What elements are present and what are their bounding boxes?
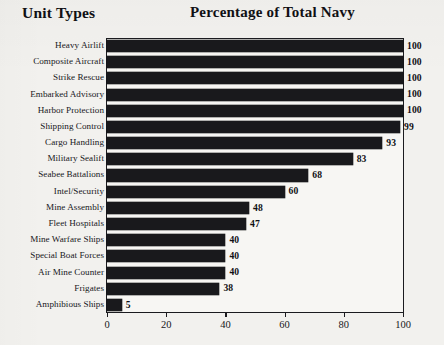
x-tick-label: 20 — [161, 319, 172, 330]
category-label: Mine Warfare Ships — [30, 234, 104, 244]
value-label: 5 — [126, 299, 131, 310]
bar — [107, 186, 285, 198]
value-label: 40 — [229, 234, 239, 245]
x-tick-mark — [403, 313, 404, 317]
bar — [107, 89, 403, 101]
bar — [107, 105, 403, 117]
category-label: Strike Rescue — [53, 72, 104, 82]
value-label: 40 — [229, 266, 239, 277]
value-label: 68 — [312, 169, 322, 180]
bar-row: Military Sealift83 — [0, 151, 444, 167]
x-tick-label: 60 — [279, 319, 290, 330]
category-label: Air Mine Counter — [38, 267, 104, 277]
value-label: 47 — [250, 218, 260, 229]
x-tick-label: 40 — [220, 319, 231, 330]
category-label: Mine Assembly — [46, 202, 104, 212]
bar-rows: Heavy Airlift100Composite Aircraft100Str… — [0, 38, 444, 313]
value-label: 40 — [229, 250, 239, 261]
bar-row: Air Mine Counter40 — [0, 264, 444, 280]
category-label: Composite Aircraft — [33, 56, 104, 66]
category-label: Amphibious Ships — [36, 299, 104, 309]
bar-row: Frigates38 — [0, 281, 444, 297]
value-label: 38 — [223, 282, 233, 293]
value-label: 48 — [253, 202, 263, 213]
bar-row: Heavy Airlift100 — [0, 38, 444, 54]
unit-types-header: Unit Types — [22, 4, 95, 22]
value-label: 100 — [407, 72, 422, 83]
bar — [107, 299, 122, 311]
bar — [107, 283, 219, 295]
bar — [107, 56, 403, 68]
value-label: 99 — [404, 121, 414, 132]
bar — [107, 121, 400, 133]
category-label: Harbor Protection — [38, 105, 104, 115]
x-tick-label: 0 — [104, 319, 109, 330]
category-label: Frigates — [74, 283, 104, 293]
category-label: Fleet Hospitals — [48, 218, 104, 228]
bar-row: Cargo Handling93 — [0, 135, 444, 151]
category-label: Military Sealift — [47, 153, 104, 163]
bar — [107, 234, 225, 246]
value-label: 93 — [386, 137, 396, 148]
value-label: 100 — [407, 56, 422, 67]
bar-row: Mine Assembly48 — [0, 200, 444, 216]
value-label: 83 — [357, 153, 367, 164]
category-label: Heavy Airlift — [55, 40, 104, 50]
chart-container: Unit Types Percentage of Total Navy Heav… — [0, 0, 444, 345]
bar — [107, 202, 249, 214]
bar-row: Composite Aircraft100 — [0, 54, 444, 70]
bar — [107, 218, 246, 230]
bar — [107, 40, 403, 52]
bar-row: Mine Warfare Ships40 — [0, 232, 444, 248]
bar — [107, 169, 308, 181]
bar-row: Harbor Protection100 — [0, 103, 444, 119]
x-tick-label: 80 — [339, 319, 350, 330]
category-label: Shipping Control — [40, 121, 104, 131]
category-label: Special Boat Forces — [30, 250, 104, 260]
chart-title: Percentage of Total Navy — [190, 4, 355, 21]
bar-row: Intel/Security60 — [0, 184, 444, 200]
bar — [107, 250, 225, 262]
bar — [107, 153, 353, 165]
value-label: 60 — [289, 185, 299, 196]
x-tick-mark — [107, 313, 108, 317]
bar-row: Seabee Battalions68 — [0, 167, 444, 183]
bar-row: Amphibious Ships5 — [0, 297, 444, 313]
category-label: Cargo Handling — [45, 137, 104, 147]
bar-row: Strike Rescue100 — [0, 70, 444, 86]
x-tick-mark — [166, 313, 167, 317]
bar-row: Shipping Control99 — [0, 119, 444, 135]
value-label: 100 — [407, 88, 422, 99]
x-axis: 020406080100 — [106, 313, 404, 343]
category-label: Seabee Battalions — [38, 169, 104, 179]
x-tick-mark — [285, 313, 286, 317]
bar — [107, 137, 382, 149]
category-label: Embarked Advisory — [30, 89, 104, 99]
bar-row: Special Boat Forces40 — [0, 248, 444, 264]
value-label: 100 — [407, 40, 422, 51]
x-tick-mark — [225, 313, 226, 317]
category-label: Intel/Security — [54, 186, 104, 196]
bar — [107, 72, 403, 84]
bar-row: Fleet Hospitals47 — [0, 216, 444, 232]
bar-row: Embarked Advisory100 — [0, 87, 444, 103]
x-tick-label: 100 — [395, 319, 411, 330]
bar — [107, 267, 225, 279]
x-tick-mark — [344, 313, 345, 317]
value-label: 100 — [407, 104, 422, 115]
